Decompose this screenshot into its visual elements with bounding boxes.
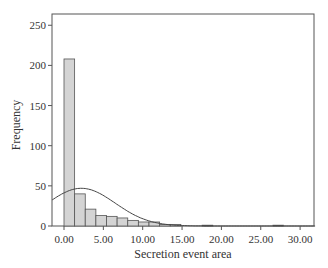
histogram-bar bbox=[138, 222, 149, 226]
x-tick-label: 30.00 bbox=[288, 233, 313, 245]
histogram-bar bbox=[64, 59, 75, 226]
x-tick-label: 15.00 bbox=[170, 233, 195, 245]
histogram-bar bbox=[85, 209, 96, 226]
y-tick-label: 250 bbox=[30, 19, 47, 31]
y-tick-label: 100 bbox=[30, 140, 47, 152]
y-axis-label: Frequency bbox=[9, 100, 23, 151]
plot-frame bbox=[52, 14, 314, 226]
histogram-bar bbox=[128, 220, 139, 226]
y-tick-label: 0 bbox=[41, 220, 47, 232]
y-tick-label: 50 bbox=[35, 180, 47, 192]
x-tick-label: 25.00 bbox=[248, 233, 273, 245]
y-axis: 050100150200250 bbox=[30, 19, 53, 232]
y-tick-label: 200 bbox=[30, 59, 47, 71]
histogram-bar bbox=[75, 194, 86, 226]
histogram-chart: 050100150200250 0.005.0010.0015.0020.002… bbox=[0, 0, 328, 268]
x-tick-label: 20.00 bbox=[209, 233, 234, 245]
histogram-bar bbox=[106, 216, 117, 226]
y-tick-label: 150 bbox=[30, 100, 47, 112]
x-axis-label: Secretion event area bbox=[134, 247, 232, 261]
histogram-bars bbox=[64, 59, 284, 226]
x-tick-label: 5.00 bbox=[94, 233, 114, 245]
x-tick-label: 10.00 bbox=[130, 233, 155, 245]
x-axis: 0.005.0010.0015.0020.0025.0030.00 bbox=[54, 226, 313, 245]
histogram-bar bbox=[117, 218, 128, 226]
x-tick-label: 0.00 bbox=[54, 233, 74, 245]
histogram-bar bbox=[96, 216, 107, 226]
